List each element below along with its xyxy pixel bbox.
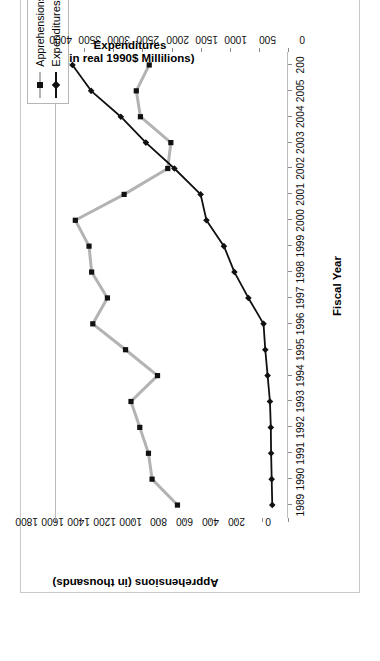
axis-tick-mark xyxy=(288,323,292,324)
axis-tick-mark xyxy=(288,142,292,143)
axis-tick-label: 2000 xyxy=(295,205,306,235)
x-axis-title: Fiscal Year xyxy=(331,0,343,592)
axis-tick-mark xyxy=(288,64,292,65)
axis-tick-label: 1996 xyxy=(295,309,306,339)
axis-tick-mark xyxy=(288,48,289,52)
axis-tick-mark xyxy=(55,48,56,52)
axis-tick-mark xyxy=(230,48,231,52)
axis-tick-mark xyxy=(288,504,292,505)
axis-tick-mark xyxy=(288,193,292,194)
axis-tick-label: 1992 xyxy=(295,412,306,442)
legend-swatch-expenditures xyxy=(49,72,63,98)
axis-tick-mark xyxy=(142,48,143,52)
axis-tick-mark xyxy=(172,48,173,52)
axis-tick-mark xyxy=(288,401,292,402)
axis-tick-mark xyxy=(288,90,292,91)
legend-item-apprehensions[interactable]: Apprehensions xyxy=(32,0,48,98)
axis-tick-label: 2002 xyxy=(295,154,306,184)
axis-tick-label: 2001 xyxy=(295,179,306,209)
axis-tick-mark xyxy=(288,375,292,376)
axis-tick-mark xyxy=(288,245,292,246)
axis-tick-mark xyxy=(107,518,108,522)
axis-tick-mark xyxy=(159,518,160,522)
axis-tick-mark xyxy=(184,518,185,522)
axis-tick-mark xyxy=(288,219,292,220)
chart-svg xyxy=(55,52,288,518)
axis-tick-label: 1997 xyxy=(295,283,306,313)
axis-tick-mark xyxy=(288,297,292,298)
chart-container: Apprehensions (in thousands) Expenditure… xyxy=(20,0,360,593)
axis-tick-label: 1994 xyxy=(295,361,306,391)
axis-tick-label: 2004 xyxy=(295,102,306,132)
axis-tick-mark xyxy=(201,48,202,52)
axis-tick-mark xyxy=(288,271,292,272)
axis-tick-mark xyxy=(84,48,85,52)
axis-tick-mark xyxy=(288,478,292,479)
y-axis-left-title: Apprehensions (in thousands) xyxy=(36,576,236,589)
plot-area xyxy=(55,52,288,518)
axis-tick-label: 1990 xyxy=(295,464,306,494)
axis-tick-mark xyxy=(288,518,289,522)
axis-tick-label: 1995 xyxy=(295,335,306,365)
axis-tick-mark xyxy=(133,518,134,522)
chart-legend: Apprehensions Expenditures xyxy=(27,0,69,104)
axis-tick-mark xyxy=(288,426,292,427)
axis-tick-mark xyxy=(259,48,260,52)
axis-tick-label: 2003 xyxy=(295,128,306,158)
axis-tick-mark xyxy=(288,349,292,350)
axis-tick-label: 1993 xyxy=(295,387,306,417)
axis-tick-label: 1991 xyxy=(295,438,306,468)
axis-tick-label: 1998 xyxy=(295,257,306,287)
axis-tick-mark xyxy=(81,518,82,522)
axis-tick-label: 200 xyxy=(295,50,306,80)
axis-tick-label: 4000 xyxy=(36,34,72,45)
legend-swatch-apprehensions xyxy=(33,72,47,98)
axis-tick-label: 1999 xyxy=(295,231,306,261)
axis-tick-mark xyxy=(236,518,237,522)
axis-tick-label: 1989 xyxy=(295,490,306,520)
axis-tick-mark xyxy=(210,518,211,522)
axis-tick-label: 1800 xyxy=(4,516,38,527)
axis-tick-mark xyxy=(288,168,292,169)
axis-tick-mark xyxy=(55,518,56,522)
legend-item-expenditures[interactable]: Expenditures xyxy=(48,0,64,98)
axis-tick-mark xyxy=(262,518,263,522)
axis-tick-mark xyxy=(288,116,292,117)
axis-tick-label: 2005 xyxy=(295,76,306,106)
figure-page: Figure 1.1. Border Enforcement Expenditu… xyxy=(0,0,380,661)
axis-tick-mark xyxy=(113,48,114,52)
axis-tick-mark xyxy=(288,452,292,453)
